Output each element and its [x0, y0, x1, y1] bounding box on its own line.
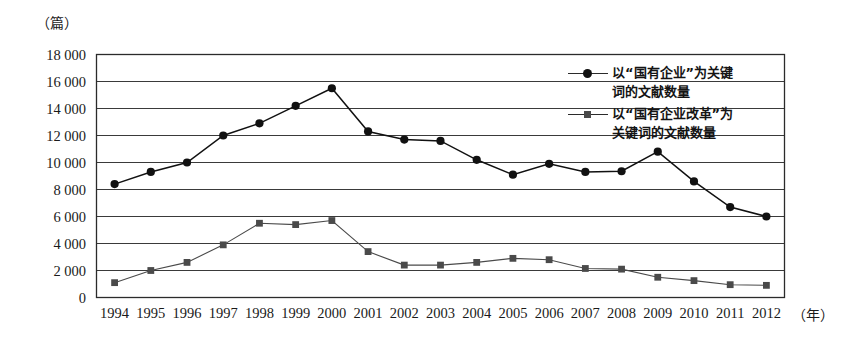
- data-point-marker: [727, 281, 734, 288]
- data-point-marker: [328, 84, 336, 92]
- data-point-marker: [618, 266, 625, 273]
- data-point-marker: [509, 171, 517, 179]
- data-point-marker: [292, 221, 299, 228]
- legend-label-1: 以“国有企业改革”为 关键词的文献数量: [612, 105, 733, 143]
- series-line: [115, 221, 767, 286]
- data-point-marker: [111, 279, 118, 286]
- legend-label-0: 以“国有企业”为关键 词的文献数量: [612, 64, 733, 102]
- plot-area: [0, 0, 862, 339]
- data-point-marker: [473, 259, 480, 266]
- legend-label-1-line1: 以“国有企业改革”为: [612, 106, 733, 121]
- data-point-marker: [219, 131, 227, 139]
- data-point-marker: [473, 156, 481, 164]
- data-point-marker: [581, 168, 589, 176]
- data-point-marker: [545, 160, 553, 168]
- data-point-marker: [364, 127, 372, 135]
- legend-label-1-line2: 关键词的文献数量: [612, 125, 716, 140]
- legend-marker-square: [568, 105, 608, 124]
- data-series: [111, 217, 770, 289]
- data-point-marker: [690, 177, 698, 185]
- data-point-marker: [220, 241, 227, 248]
- data-point-marker: [111, 180, 119, 188]
- data-point-marker: [147, 168, 155, 176]
- data-point-marker: [510, 255, 517, 262]
- chart-legend: 以“国有企业”为关键 词的文献数量 以“国有企业改革”为 关键词的文献数量: [568, 64, 790, 145]
- legend-label-0-line2: 词的文献数量: [612, 84, 690, 99]
- data-point-marker: [582, 265, 589, 272]
- legend-item-0: 以“国有企业”为关键 词的文献数量: [568, 64, 790, 102]
- data-point-marker: [726, 203, 734, 211]
- data-point-marker: [401, 262, 408, 269]
- data-point-marker: [763, 282, 770, 289]
- data-point-marker: [436, 137, 444, 145]
- data-point-marker: [546, 256, 553, 263]
- data-point-marker: [365, 248, 372, 255]
- data-point-marker: [184, 259, 191, 266]
- legend-marker-circle: [568, 64, 608, 83]
- data-point-marker: [617, 167, 625, 175]
- data-point-marker: [762, 212, 770, 220]
- data-point-marker: [255, 119, 263, 127]
- data-point-marker: [654, 148, 662, 156]
- data-point-marker: [183, 158, 191, 166]
- data-point-marker: [437, 262, 444, 269]
- chart-container: （篇） （年） 02 0004 0006 0008 00010 00012 00…: [0, 0, 862, 339]
- legend-item-1: 以“国有企业改革”为 关键词的文献数量: [568, 105, 790, 143]
- data-point-marker: [691, 277, 698, 284]
- legend-label-0-line1: 以“国有企业”为关键: [612, 65, 733, 80]
- data-point-marker: [328, 217, 335, 224]
- data-point-marker: [654, 274, 661, 281]
- data-point-marker: [400, 135, 408, 143]
- data-point-marker: [256, 220, 263, 227]
- data-point-marker: [147, 267, 154, 274]
- data-point-marker: [292, 102, 300, 110]
